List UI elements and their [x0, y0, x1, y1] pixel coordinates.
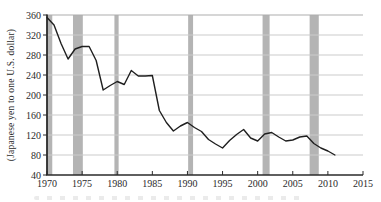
yen-dollar-exchange-rate-chart: (Japanese yen to one U.S. dollar) 408012…: [0, 0, 381, 202]
chart-canvas: 4080120160200240280320360197019751980198…: [0, 0, 381, 202]
y-tick-label: 120: [26, 130, 41, 141]
x-tick-label: 1975: [72, 178, 92, 189]
x-tick-label: 2005: [283, 178, 303, 189]
x-tick-label: 1985: [142, 178, 162, 189]
cropped-caption-fragment: [34, 196, 302, 200]
y-tick-label: 160: [26, 110, 41, 121]
y-tick-label: 240: [26, 70, 41, 81]
x-tick-label: 1990: [177, 178, 197, 189]
y-tick-label: 360: [26, 10, 41, 21]
y-tick-label: 320: [26, 30, 41, 41]
x-tick-label: 1970: [37, 178, 57, 189]
y-axis-title: (Japanese yen to one U.S. dollar): [6, 29, 16, 161]
y-tick-label: 280: [26, 50, 41, 61]
x-tick-label: 1980: [107, 178, 127, 189]
x-tick-label: 2015: [353, 178, 373, 189]
x-tick-label: 2000: [248, 178, 268, 189]
x-tick-label: 1995: [213, 178, 233, 189]
x-tick-label: 2010: [318, 178, 338, 189]
y-tick-label: 200: [26, 90, 41, 101]
y-tick-label: 80: [31, 150, 41, 161]
